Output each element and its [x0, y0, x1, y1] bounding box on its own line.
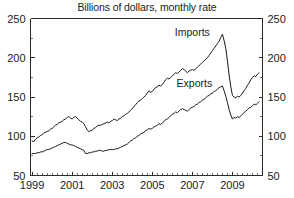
minor-ticks-group — [31, 38, 263, 175]
y-axis-left-labels: 50100150200250 — [7, 13, 25, 182]
series-line-imports — [32, 34, 259, 142]
trade-chart-figure: Billions of dollars, monthly rate 501001… — [0, 0, 294, 198]
y-axis-right-labels: 50100150200250 — [268, 13, 286, 182]
y-axis-right-label: 250 — [268, 13, 286, 25]
series-annotations-group: ImportsExports — [175, 26, 212, 89]
y-axis-right-label: 100 — [268, 130, 286, 142]
x-axis-label: 2001 — [60, 179, 84, 191]
y-axis-right-label: 150 — [268, 91, 286, 103]
x-axis-label: 2003 — [100, 179, 124, 191]
annotation-imports: Imports — [175, 26, 210, 38]
x-axis-label: 2009 — [220, 179, 244, 191]
x-axis-labels: 199920012003200520072009 — [20, 179, 245, 191]
y-axis-left-label: 150 — [7, 91, 25, 103]
annotation-exports: Exports — [177, 77, 213, 89]
plot-border — [31, 19, 263, 176]
axis-frame — [31, 19, 263, 176]
major-ticks-group — [31, 19, 263, 176]
y-axis-right-label: 50 — [268, 170, 280, 182]
x-axis-label: 2007 — [180, 179, 204, 191]
y-axis-right-label: 200 — [268, 52, 286, 64]
x-axis-label: 2005 — [140, 179, 164, 191]
data-series-group — [32, 34, 259, 153]
y-axis-left-label: 100 — [7, 130, 25, 142]
y-axis-left-label: 250 — [7, 13, 25, 25]
x-axis-label: 1999 — [20, 179, 44, 191]
series-line-exports — [32, 86, 259, 154]
y-axis-left-label: 200 — [7, 52, 25, 64]
chart-plot-area: 50100150200250 50100150200250 1999200120… — [0, 0, 294, 198]
